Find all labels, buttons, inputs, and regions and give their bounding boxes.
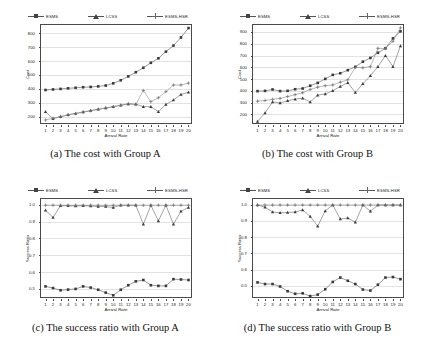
figure-four-subplots: ESMS LCSS ESMS-HSR 200300400500600700800…: [0, 0, 423, 348]
legend-marker-triangle-icon: [300, 187, 316, 194]
y-tick-label: 300: [17, 100, 35, 105]
data-point: [180, 278, 183, 281]
y-tick-label: 0.9: [229, 218, 247, 223]
data-point: [149, 100, 152, 103]
data-point: [347, 279, 350, 282]
data-point: [339, 203, 342, 206]
data-point: [112, 82, 115, 85]
data-point: [59, 289, 62, 292]
data-point: [294, 293, 297, 296]
data-point: [399, 26, 402, 29]
data-point: [263, 203, 266, 206]
data-point: [157, 204, 160, 207]
data-point: [316, 82, 319, 85]
data-point: [301, 208, 304, 211]
data-point: [67, 288, 70, 291]
series-line-esms: [258, 31, 401, 91]
data-point: [339, 72, 342, 75]
data-point: [52, 88, 55, 91]
data-point: [339, 85, 342, 88]
legend-label-esms-hsr: ESMS-HSR: [377, 14, 400, 19]
legend-marker-triangle-icon: [88, 187, 104, 194]
data-point: [339, 276, 342, 279]
plot-area-b: 2003004005006007008009001234567891011121…: [252, 24, 404, 124]
data-point: [59, 88, 62, 91]
data-point: [142, 223, 145, 226]
data-point: [369, 65, 372, 68]
legend-c: ESMS LCSS ESMS-HSR: [28, 185, 188, 196]
data-point: [271, 203, 274, 206]
data-point: [165, 285, 168, 288]
subplot-d: ESMS LCSS ESMS-HSR 0.50.60.70.80.91.0123…: [212, 174, 423, 348]
legend-label-esms: ESMS: [258, 188, 270, 193]
data-point: [399, 30, 402, 33]
legend-marker-square-icon: [28, 13, 44, 20]
data-point: [324, 78, 327, 81]
legend-d: ESMS LCSS ESMS-HSR: [240, 185, 400, 196]
series-layer: [253, 199, 405, 299]
legend-item-esms-hsr: ESMS-HSR: [359, 13, 400, 20]
data-point: [150, 284, 153, 287]
data-point: [172, 98, 175, 101]
data-point: [44, 209, 47, 212]
data-point: [82, 86, 85, 89]
data-point: [187, 27, 190, 30]
data-point: [97, 85, 100, 88]
data-point: [164, 103, 167, 106]
legend-item-lcss: LCSS: [300, 187, 329, 194]
data-point: [392, 276, 395, 279]
data-point: [89, 109, 92, 112]
data-point: [51, 204, 54, 207]
data-point: [346, 78, 349, 81]
data-point: [346, 216, 349, 219]
legend-marker-plus-icon: [147, 13, 163, 20]
data-point: [278, 97, 281, 100]
data-point: [135, 280, 138, 283]
data-point: [369, 203, 372, 206]
data-point: [172, 44, 175, 47]
legend-label-esms-hsr: ESMS-HSR: [165, 14, 188, 19]
data-point: [354, 221, 357, 224]
y-tick-label: 0.5: [17, 286, 35, 291]
plot-area-c: 0.50.60.70.80.91.01234567891011121314151…: [40, 198, 192, 298]
data-point: [278, 203, 281, 206]
data-point: [256, 100, 259, 103]
data-point: [135, 71, 138, 74]
data-point: [324, 203, 327, 206]
data-point: [187, 81, 190, 84]
data-point: [67, 87, 70, 90]
plot-area-a: 2003004005006007008001234567891011121314…: [40, 24, 192, 124]
data-point: [309, 295, 312, 298]
data-point: [179, 83, 182, 86]
data-point: [324, 288, 327, 291]
data-point: [180, 36, 183, 39]
data-point: [279, 90, 282, 93]
y-axis-label: Cost: [237, 55, 242, 95]
data-point: [361, 66, 364, 69]
data-point: [74, 112, 77, 115]
legend-item-esms-hsr: ESMS-HSR: [147, 187, 188, 194]
series-line-esms: [46, 279, 189, 295]
data-point: [96, 108, 99, 111]
legend-marker-square-icon: [240, 13, 256, 20]
legend-marker-square-icon: [28, 187, 44, 194]
legend-marker-triangle-icon: [88, 13, 104, 20]
data-point: [399, 44, 402, 47]
data-point: [187, 279, 190, 282]
y-tick-label: 0.5: [229, 283, 247, 288]
data-point: [309, 84, 312, 87]
legend-item-esms-hsr: ESMS-HSR: [147, 13, 188, 20]
data-point: [112, 294, 115, 297]
x-axis-label: Arrival Rate: [41, 133, 191, 138]
series-line-lcss: [258, 205, 401, 226]
legend-label-esms-hsr: ESMS-HSR: [377, 188, 400, 193]
legend-item-esms: ESMS: [28, 13, 58, 20]
data-point: [308, 88, 311, 91]
data-point: [187, 91, 190, 94]
data-point: [97, 288, 100, 291]
data-point: [369, 289, 372, 292]
legend-b: ESMS LCSS ESMS-HSR: [240, 11, 400, 22]
caption-d: (d) The success ratio with Group B: [212, 322, 423, 333]
caption-c: (c) The success ratio with Group A: [0, 322, 211, 333]
y-tick-label: 0.9: [17, 219, 35, 224]
